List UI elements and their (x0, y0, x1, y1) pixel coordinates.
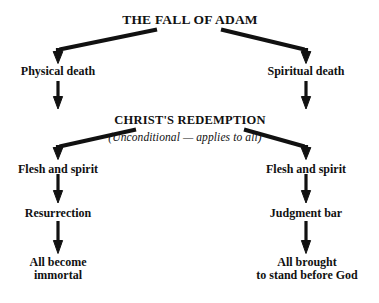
node-flesh-and-spirit-left: Flesh and spirit (18, 163, 98, 176)
node-spiritual-death-label: Spiritual death (267, 64, 344, 78)
node-physical-death-label: Physical death (21, 64, 95, 78)
arrow-fall-to-spiritual-death (221, 30, 311, 64)
node-fall-of-adam-label: THE FALL OF ADAM (122, 12, 258, 27)
arrow-flesh-left-to-resurrection (53, 174, 62, 203)
node-redemption-note: (Unconditional — applies to all) (108, 131, 261, 144)
arrow-flesh-right-to-judgment-bar (301, 174, 310, 203)
node-judgment-bar-label: Judgment bar (270, 206, 342, 220)
node-spiritual-death: Spiritual death (267, 65, 344, 78)
node-all-become-immortal-line1: All become (30, 256, 87, 269)
node-christs-redemption-label: CHRIST'S REDEMPTION (114, 113, 265, 127)
node-physical-death: Physical death (21, 65, 95, 78)
node-all-brought-line2: to stand before God (256, 269, 357, 282)
node-resurrection-label: Resurrection (25, 206, 91, 220)
node-flesh-and-spirit-right-label: Flesh and spirit (266, 162, 346, 176)
fall-of-adam-diagram: THE FALL OF ADAM Physical death Spiritua… (0, 0, 379, 303)
node-christs-redemption: CHRIST'S REDEMPTION (114, 113, 265, 127)
arrow-fall-to-physical-death (53, 30, 157, 64)
node-redemption-note-label: (Unconditional — applies to all) (108, 131, 261, 143)
node-all-brought-line1: All brought (256, 256, 357, 269)
node-all-become-immortal-line2: immortal (30, 269, 87, 282)
node-resurrection: Resurrection (25, 207, 91, 220)
arrow-spiritual-death-down (301, 81, 310, 109)
node-flesh-and-spirit-right: Flesh and spirit (266, 163, 346, 176)
node-all-brought-to-stand-before-god: All brought to stand before God (256, 256, 357, 283)
node-fall-of-adam: THE FALL OF ADAM (122, 12, 258, 27)
node-flesh-and-spirit-left-label: Flesh and spirit (18, 162, 98, 176)
arrow-judgment-to-stand-before-god (301, 221, 310, 254)
arrow-resurrection-to-immortal (53, 221, 62, 254)
node-judgment-bar: Judgment bar (270, 207, 342, 220)
arrow-physical-death-down (53, 81, 62, 109)
node-all-become-immortal: All become immortal (30, 256, 87, 283)
